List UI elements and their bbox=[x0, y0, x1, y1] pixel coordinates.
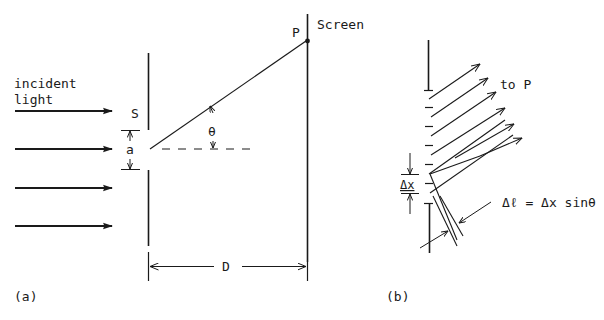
panel-b-label: (b) bbox=[386, 289, 409, 304]
point-p-label: P bbox=[292, 25, 300, 40]
panel-a: incident light S a bbox=[14, 14, 364, 304]
panel-b: to P Δx Δℓ = Δx sinθ (b) bbox=[386, 40, 596, 304]
ray-arrow-icon bbox=[431, 92, 496, 136]
element-width-label: Δx bbox=[400, 178, 414, 192]
incident-label-line1: incident bbox=[14, 76, 77, 91]
path-diff-arrow-icon bbox=[420, 231, 448, 248]
path-diff-arrow-icon bbox=[459, 202, 491, 223]
incident-light-arrows bbox=[15, 111, 112, 226]
screen-label: Screen bbox=[317, 17, 364, 32]
single-slit-diffraction-diagram: incident light S a bbox=[0, 0, 604, 320]
ray-arrow-icon bbox=[431, 78, 488, 117]
distance-label: D bbox=[222, 259, 230, 274]
ray-arrow-icon bbox=[429, 64, 480, 99]
angle-label: θ bbox=[208, 124, 216, 139]
path-difference-equation: Δℓ = Δx sinθ bbox=[502, 195, 596, 210]
panel-a-label: (a) bbox=[14, 289, 37, 304]
incident-label-line2: light bbox=[14, 92, 53, 107]
point-p-dot bbox=[305, 39, 310, 44]
wavefront-lines bbox=[430, 174, 463, 246]
to-p-label: to P bbox=[500, 77, 531, 92]
slit-label: S bbox=[131, 106, 139, 121]
ray-to-p bbox=[150, 41, 306, 149]
slit-width-label: a bbox=[126, 142, 134, 157]
